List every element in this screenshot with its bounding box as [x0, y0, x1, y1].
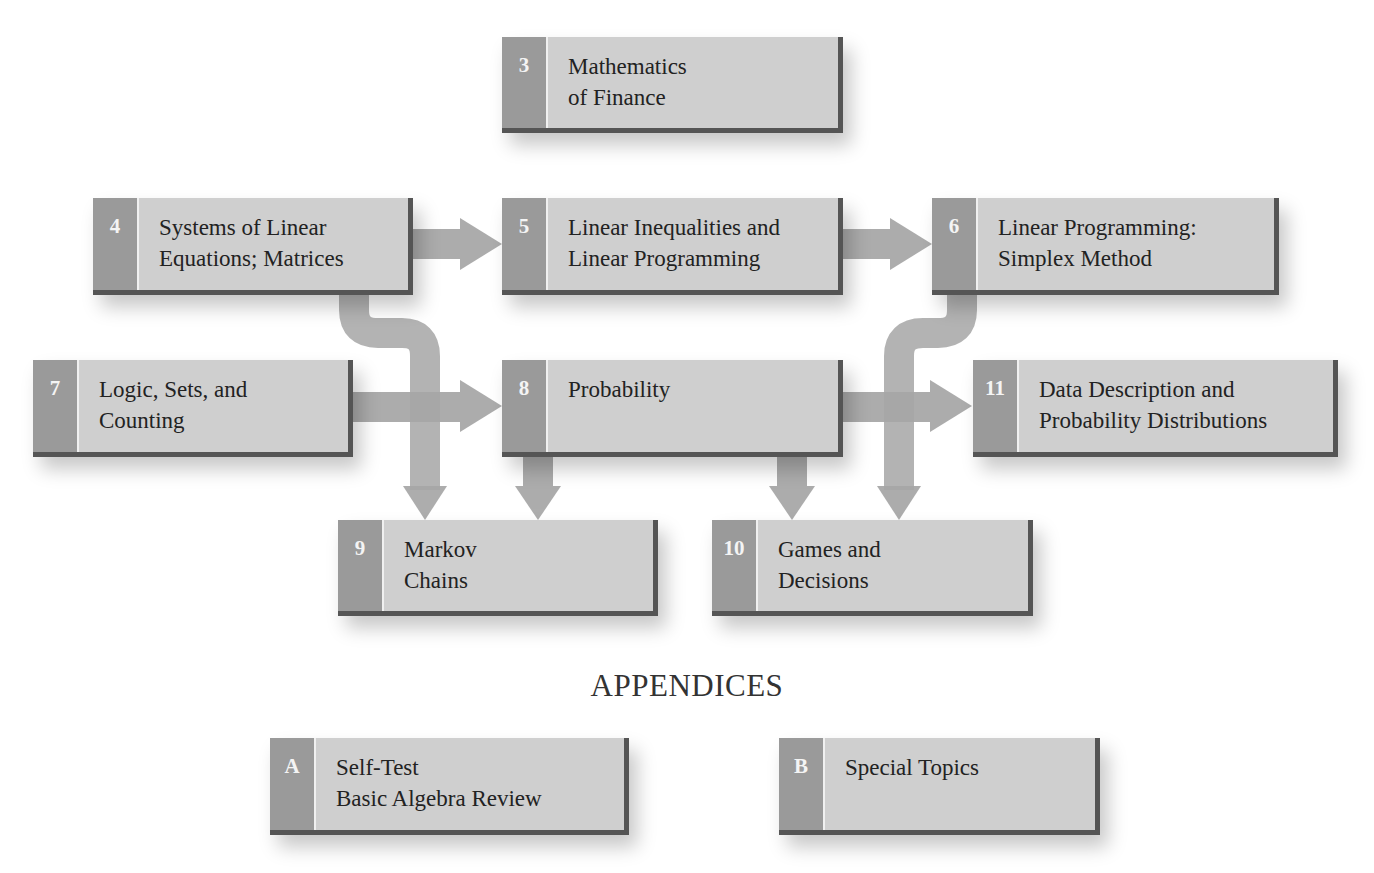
chapter-box-9: 9 Markov Chains: [338, 520, 658, 616]
chapter-box-8: 8 Probability: [502, 360, 843, 457]
appendix-letter: B: [779, 738, 825, 830]
chapter-title: Probability: [548, 360, 670, 452]
appendix-title: Self-Test Basic Algebra Review: [316, 738, 542, 830]
appendix-box-b: B Special Topics: [779, 738, 1100, 835]
chapter-number: 4: [93, 198, 139, 290]
chapter-number: 11: [973, 360, 1019, 452]
chapter-title: Systems of Linear Equations; Matrices: [139, 198, 344, 290]
chapter-number: 6: [932, 198, 978, 290]
chapter-box-7: 7 Logic, Sets, and Counting: [33, 360, 353, 457]
arrowhead-6-to-10: [877, 486, 921, 520]
appendix-letter: A: [270, 738, 316, 830]
appendix-title: Special Topics: [825, 738, 979, 830]
chapter-title: Games and Decisions: [758, 520, 881, 611]
chapter-title: Linear Inequalities and Linear Programmi…: [548, 198, 780, 290]
chapter-title: Linear Programming: Simplex Method: [978, 198, 1197, 290]
chapter-box-3: 3 Mathematics of Finance: [502, 37, 843, 133]
chapter-box-4: 4 Systems of Linear Equations; Matrices: [93, 198, 413, 295]
appendix-box-a: A Self-Test Basic Algebra Review: [270, 738, 629, 835]
chapter-number: 3: [502, 37, 548, 128]
chapter-number: 5: [502, 198, 548, 290]
arrowhead-4-to-9: [403, 486, 447, 520]
arrow-5-to-6: [843, 218, 932, 270]
chapter-box-5: 5 Linear Inequalities and Linear Program…: [502, 198, 843, 295]
chapter-title: Logic, Sets, and Counting: [79, 360, 247, 452]
chapter-title: Markov Chains: [384, 520, 477, 611]
chapter-box-6: 6 Linear Programming: Simplex Method: [932, 198, 1279, 295]
chapter-box-11: 11 Data Description and Probability Dist…: [973, 360, 1338, 457]
chapter-number: 7: [33, 360, 79, 452]
appendices-heading: APPENDICES: [0, 668, 1374, 704]
chapter-box-10: 10 Games and Decisions: [712, 520, 1033, 616]
chapter-number: 8: [502, 360, 548, 452]
arrow-8-to-10: [769, 457, 815, 520]
chapter-number: 9: [338, 520, 384, 611]
chapter-number: 10: [712, 520, 758, 611]
chapter-title: Mathematics of Finance: [548, 37, 687, 128]
arrow-4-to-5: [413, 218, 502, 270]
arrow-8-to-9: [515, 457, 561, 520]
chapter-title: Data Description and Probability Distrib…: [1019, 360, 1267, 452]
